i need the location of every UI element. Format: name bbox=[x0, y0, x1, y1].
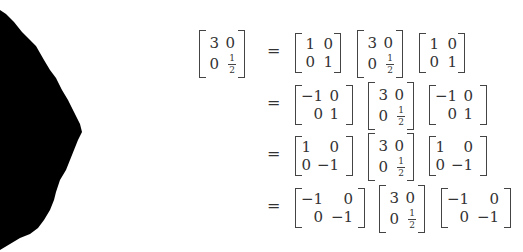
equals-sign: = bbox=[267, 144, 280, 163]
matrix-decomposition-equation: 3 0 0 12 = 1 0 0 1 3 0 0 12 1 0 0 1 = −1… bbox=[0, 0, 523, 252]
row1-right-matrix: 1 0 0 1 bbox=[419, 33, 465, 73]
lhs-a: 3 bbox=[209, 36, 219, 51]
lhs-matrix: 3 0 0 12 bbox=[199, 30, 245, 78]
row4-left-matrix: −1 0 0 −1 bbox=[295, 188, 365, 228]
lhs-d-fraction: 12 bbox=[228, 54, 236, 75]
equals-sign: = bbox=[267, 196, 280, 215]
row1-left-matrix: 1 0 0 1 bbox=[295, 33, 341, 73]
row4-right-matrix: −1 0 0 −1 bbox=[441, 188, 511, 228]
equals-sign: = bbox=[267, 93, 280, 112]
row3-middle-matrix: 3 0 0 12 bbox=[368, 133, 414, 181]
row2-right-matrix: −1 0 0 1 bbox=[429, 85, 487, 125]
row3-right-matrix: 1 0 0 −1 bbox=[429, 136, 487, 176]
lhs-b: 0 bbox=[225, 36, 235, 51]
row2-left-matrix: −1 0 0 1 bbox=[295, 85, 353, 125]
row3-left-matrix: 1 0 0 −1 bbox=[295, 136, 353, 176]
lhs-c: 0 bbox=[209, 57, 219, 72]
equals-sign: = bbox=[267, 41, 280, 60]
row2-middle-matrix: 3 0 0 12 bbox=[368, 82, 414, 130]
row4-middle-matrix: 3 0 0 12 bbox=[379, 185, 425, 233]
row1-middle-matrix: 3 0 0 12 bbox=[357, 30, 403, 78]
